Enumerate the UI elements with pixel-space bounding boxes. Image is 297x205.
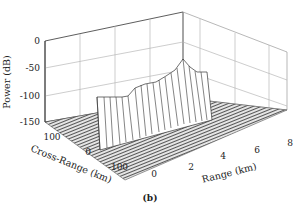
z-tick-3: -150 [20, 117, 40, 127]
z-tick-2: -100 [20, 91, 40, 101]
surface-plot: 0 -50 -100 -150 Power (dB) 100 0 -100 Cr… [0, 0, 297, 205]
figure-caption: (b) [143, 193, 158, 203]
z-axis-label: Power (dB) [1, 55, 12, 109]
x-tick-2: 4 [220, 151, 226, 161]
y-tick-2: -100 [108, 162, 128, 172]
z-tick-0: 0 [34, 36, 40, 46]
x-tick-0: 0 [151, 169, 157, 179]
z-tick-1: -50 [26, 63, 41, 73]
x-axis-label: Range (km) [201, 160, 258, 184]
x-tick-4: 8 [287, 138, 293, 148]
y-tick-0: 100 [43, 132, 60, 142]
x-tick-3: 6 [254, 145, 260, 155]
y-tick-1: 0 [85, 147, 91, 157]
x-tick-1: 2 [188, 162, 194, 172]
